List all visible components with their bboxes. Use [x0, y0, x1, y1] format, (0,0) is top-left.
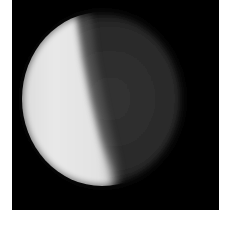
planet-image-svg	[12, 0, 219, 210]
astronomical-image	[12, 0, 219, 210]
